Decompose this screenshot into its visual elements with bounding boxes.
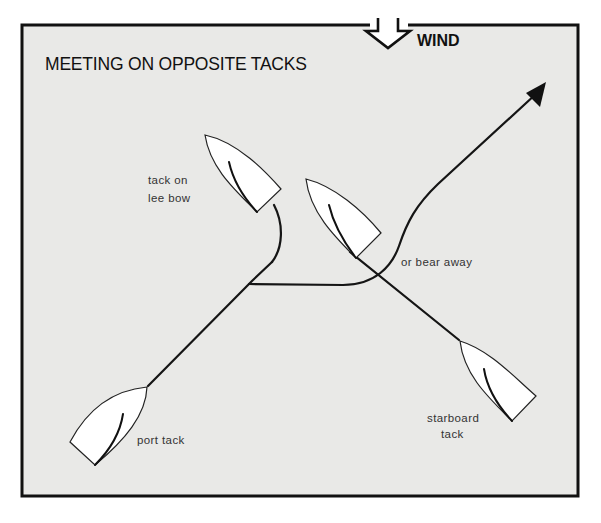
tack-on-lee-bow-label-line2: lee bow (148, 192, 191, 204)
diagram-canvas: WIND MEETING ON OPPOSITE TACKS port tack… (0, 0, 601, 523)
bear-away-label: or bear away (401, 256, 472, 268)
starboard-tack-label-line2: tack (441, 428, 464, 440)
diagram-title: MEETING ON OPPOSITE TACKS (45, 54, 307, 74)
starboard-tack-label-line1: starboard (427, 412, 479, 424)
port-tack-label: port tack (137, 434, 185, 446)
tack-on-lee-bow-label-line1: tack on (148, 174, 188, 186)
wind-label: WIND (417, 32, 460, 49)
